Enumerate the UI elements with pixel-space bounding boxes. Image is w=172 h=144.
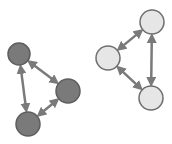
double-arrow-l2-l3 (120, 69, 140, 87)
dark-node-d2 (56, 79, 80, 103)
dark-node-d1 (8, 43, 30, 65)
nodes (8, 10, 164, 136)
double-arrow-l1-l2 (120, 32, 139, 48)
edges (21, 32, 152, 114)
light-node-l3 (139, 86, 163, 110)
network-diagram (0, 0, 172, 144)
light-node-l2 (96, 46, 120, 70)
double-arrow-d1-d2 (31, 63, 55, 81)
double-arrow-d1-d3 (21, 69, 26, 108)
double-arrow-l1-l3 (151, 38, 152, 82)
double-arrow-d2-d3 (40, 101, 55, 114)
dark-node-d3 (16, 112, 40, 136)
light-node-l1 (140, 10, 164, 34)
